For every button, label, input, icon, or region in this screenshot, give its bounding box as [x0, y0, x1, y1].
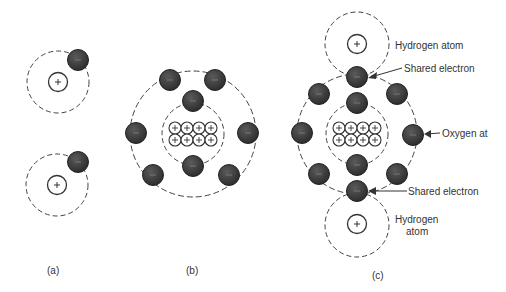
caption-b: (b): [186, 265, 198, 276]
label-shared-electron-top: Shared electron: [404, 63, 475, 74]
caption-c: (c): [372, 270, 384, 281]
caption-a: (a): [47, 265, 59, 276]
panel-b-oxygen-atom: [126, 70, 259, 198]
label-shared-electron-bottom: Shared electron: [408, 186, 479, 197]
label-oxygen-atom: Oxygen at: [442, 128, 488, 139]
panel-a-hydrogen-top: [27, 50, 89, 114]
label-hydrogen-bottom-line2: atom: [406, 226, 428, 237]
panel-a-hydrogen-bottom: [26, 152, 89, 217]
label-hydrogen-atom-top: Hydrogen atom: [395, 40, 463, 51]
label-hydrogen-bottom-line1: Hydrogen: [395, 214, 438, 225]
